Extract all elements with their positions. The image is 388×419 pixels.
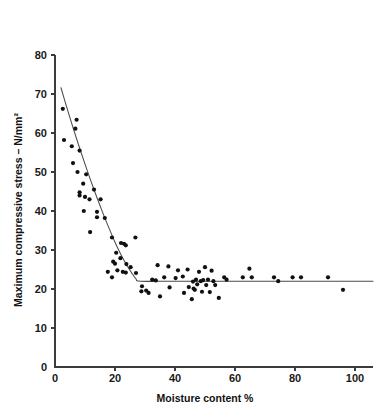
data-point bbox=[99, 197, 103, 201]
data-point bbox=[110, 275, 114, 279]
data-point bbox=[134, 271, 138, 275]
y-tick-label-70: 70 bbox=[35, 88, 47, 100]
data-point bbox=[115, 268, 119, 272]
axis-lines bbox=[55, 55, 373, 367]
y-axis-title: Maximum compressive stress – N/mm² bbox=[12, 113, 24, 307]
y-tick-label-80: 80 bbox=[35, 49, 47, 61]
data-point bbox=[272, 275, 276, 279]
data-point bbox=[162, 275, 166, 279]
data-point bbox=[194, 278, 198, 282]
data-point bbox=[225, 278, 229, 282]
data-point bbox=[95, 215, 99, 219]
data-point bbox=[147, 291, 151, 295]
data-point bbox=[186, 267, 190, 271]
data-point bbox=[156, 263, 160, 267]
data-point bbox=[208, 290, 212, 294]
data-point bbox=[195, 282, 199, 286]
data-point bbox=[326, 275, 330, 279]
data-point bbox=[78, 193, 82, 197]
data-point bbox=[88, 230, 92, 234]
data-point bbox=[83, 195, 87, 199]
data-point bbox=[247, 267, 251, 271]
data-point bbox=[62, 138, 66, 142]
data-points bbox=[61, 107, 345, 302]
data-point bbox=[241, 275, 245, 279]
data-point bbox=[110, 235, 114, 239]
data-point bbox=[129, 265, 133, 269]
scatter-plot: 01020304050607080 020406080100 Maximum c… bbox=[0, 0, 388, 419]
data-point bbox=[133, 235, 137, 239]
data-point bbox=[210, 269, 214, 273]
data-point bbox=[61, 107, 65, 111]
data-point bbox=[168, 285, 172, 289]
data-point bbox=[140, 284, 144, 288]
data-point bbox=[118, 256, 122, 260]
x-tick-label-0: 0 bbox=[52, 372, 58, 384]
y-axis-tick-labels: 01020304050607080 bbox=[35, 49, 47, 373]
data-point bbox=[92, 187, 96, 191]
axes bbox=[55, 55, 373, 367]
data-point bbox=[291, 275, 295, 279]
data-point bbox=[114, 251, 118, 255]
x-tick-label-100: 100 bbox=[346, 372, 364, 384]
data-point bbox=[70, 144, 74, 148]
data-point bbox=[193, 288, 197, 292]
data-point bbox=[217, 296, 221, 300]
data-point bbox=[203, 265, 207, 269]
data-point bbox=[139, 289, 143, 293]
data-point bbox=[200, 290, 204, 294]
data-point bbox=[81, 182, 85, 186]
data-point bbox=[250, 275, 254, 279]
data-point bbox=[187, 285, 191, 289]
data-point bbox=[106, 270, 110, 274]
data-point bbox=[84, 172, 88, 176]
data-point bbox=[201, 278, 205, 282]
data-point bbox=[166, 264, 170, 268]
data-point bbox=[124, 243, 128, 247]
data-point bbox=[95, 210, 99, 214]
data-point bbox=[299, 275, 303, 279]
data-point bbox=[75, 170, 79, 174]
data-point bbox=[176, 268, 180, 272]
data-point bbox=[124, 262, 128, 266]
data-point bbox=[113, 262, 117, 266]
x-tick-label-60: 60 bbox=[229, 372, 241, 384]
y-tick-label-30: 30 bbox=[35, 244, 47, 256]
x-tick-label-40: 40 bbox=[169, 372, 181, 384]
data-point bbox=[204, 283, 208, 287]
y-tick-label-40: 40 bbox=[35, 205, 47, 217]
y-tick-label-50: 50 bbox=[35, 166, 47, 178]
data-point bbox=[87, 197, 91, 201]
data-point bbox=[82, 209, 86, 213]
x-tick-label-20: 20 bbox=[109, 372, 121, 384]
data-point bbox=[206, 278, 210, 282]
data-point bbox=[211, 279, 215, 283]
data-point bbox=[213, 283, 217, 287]
trend-line bbox=[61, 88, 373, 282]
x-axis-title: Moisture content % bbox=[157, 392, 255, 404]
data-point bbox=[78, 148, 82, 152]
data-point bbox=[158, 294, 162, 298]
chart-container: 01020304050607080 020406080100 Maximum c… bbox=[0, 0, 388, 419]
data-point bbox=[190, 297, 194, 301]
data-point bbox=[154, 278, 158, 282]
data-point bbox=[73, 127, 77, 131]
data-point bbox=[276, 279, 280, 283]
data-point bbox=[75, 118, 79, 122]
data-point bbox=[174, 276, 178, 280]
x-axis-tick-labels: 020406080100 bbox=[52, 372, 364, 384]
y-tick-label-60: 60 bbox=[35, 127, 47, 139]
data-point bbox=[150, 278, 154, 282]
y-tick-label-10: 10 bbox=[35, 322, 47, 334]
data-point bbox=[197, 270, 201, 274]
data-point bbox=[341, 288, 345, 292]
data-point bbox=[71, 161, 75, 165]
data-point bbox=[182, 291, 186, 295]
fitted-trend-curve bbox=[61, 88, 373, 282]
data-point bbox=[181, 274, 185, 278]
x-tick-label-80: 80 bbox=[289, 372, 301, 384]
data-point bbox=[124, 271, 128, 275]
data-point bbox=[103, 216, 107, 220]
y-tick-label-20: 20 bbox=[35, 283, 47, 295]
y-tick-label-0: 0 bbox=[41, 361, 47, 373]
